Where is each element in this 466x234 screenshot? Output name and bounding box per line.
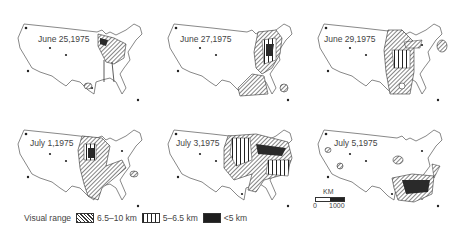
map-panel-june-25: June 25,1975 [2,2,152,102]
map-panel-july-3: July 3,1975 [152,108,302,208]
vertical-stripes-swatch-icon [142,213,160,223]
panel-date: July 1,1975 [30,138,73,148]
legend-label: 5–6.5 km [163,213,198,223]
solid-dark-swatch-icon [203,213,221,223]
scale-start: 0 [313,202,317,209]
panel-date: June 25,1975 [38,34,90,44]
map-panel-july-1: July 1,1975 [2,108,152,208]
legend-label: <5 km [224,213,247,223]
us-map [152,108,302,208]
legend-label: 6.5–10 km [97,213,137,223]
legend: Visual range 6.5–10 km 5–6.5 km <5 km [24,211,247,225]
legend-title: Visual range [24,213,71,223]
panel-date: June 27,1975 [180,34,232,44]
us-map [2,2,152,102]
scale-end: 1000 [329,202,345,209]
panel-date: July 3,1975 [176,138,219,148]
us-map [2,108,152,208]
us-map [152,2,302,102]
map-panel-june-27: June 27,1975 [152,2,302,102]
scale-unit: KM [323,188,334,195]
diagonal-hatch-swatch-icon [76,213,94,223]
us-map [302,2,452,102]
panel-date: July 5,1975 [334,138,377,148]
panel-date: June 29,1975 [324,34,376,44]
map-panel-june-29: June 29,1975 [302,2,452,102]
